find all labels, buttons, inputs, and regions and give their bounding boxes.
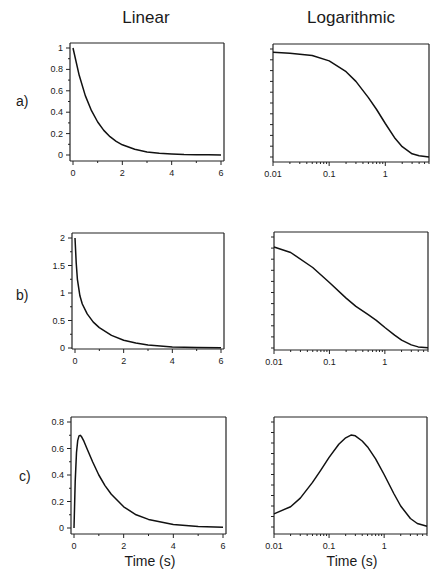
x-tick-label: 6	[218, 168, 223, 178]
x-tick-label: 0	[72, 356, 77, 366]
y-tick-label: 0.2	[50, 129, 63, 139]
x-tick-label: 0.01	[265, 357, 283, 367]
x-tick-label: 4	[169, 168, 174, 178]
x-tick-label: 0.1	[323, 541, 336, 551]
y-tick-label: 0.2	[51, 497, 64, 507]
x-tick-label: 4	[170, 356, 175, 366]
y-tick-label: 0.6	[50, 86, 63, 96]
x-tick-label: 6	[218, 356, 223, 366]
y-tick-label: 0.6	[51, 444, 64, 454]
x-tick-label: 0.1	[323, 357, 336, 367]
y-tick-label: 1	[58, 43, 63, 53]
x-tick-label: 4	[171, 541, 176, 551]
y-tick-label: 0	[59, 523, 64, 533]
y-tick-label: 0.4	[51, 470, 64, 480]
x-tick-label: 2	[121, 541, 126, 551]
x-tick-label: 0	[70, 168, 75, 178]
y-tick-label: 0.8	[51, 417, 64, 427]
data-curve	[274, 435, 427, 526]
y-tick-label: 1.5	[52, 261, 65, 271]
y-tick-label: 0	[58, 150, 63, 160]
x-tick-label: 0	[71, 541, 76, 551]
x-tick-label: 2	[121, 356, 126, 366]
y-tick-label: 0.5	[52, 316, 65, 326]
x-tick-label: 1	[382, 357, 387, 367]
data-curve	[73, 48, 221, 155]
x-tick-label: 6	[220, 541, 225, 551]
x-tick-label: 1	[383, 169, 388, 179]
x-tick-label: 1	[382, 541, 387, 551]
y-tick-label: 0	[60, 343, 65, 353]
data-curve	[274, 247, 428, 348]
y-tick-label: 0.8	[50, 64, 63, 74]
data-curve	[75, 238, 221, 348]
y-tick-label: 0.4	[50, 107, 63, 117]
data-curve	[74, 435, 223, 528]
chart-grid: 00.20.40.60.8102460.010.1100.511.5202460…	[0, 0, 446, 587]
y-tick-label: 2	[60, 233, 65, 243]
x-tick-label: 0.01	[264, 169, 282, 179]
x-tick-label: 0.01	[265, 541, 283, 551]
data-curve	[273, 52, 429, 157]
y-tick-label: 1	[60, 288, 65, 298]
x-tick-label: 0.1	[323, 169, 336, 179]
x-tick-label: 2	[120, 168, 125, 178]
